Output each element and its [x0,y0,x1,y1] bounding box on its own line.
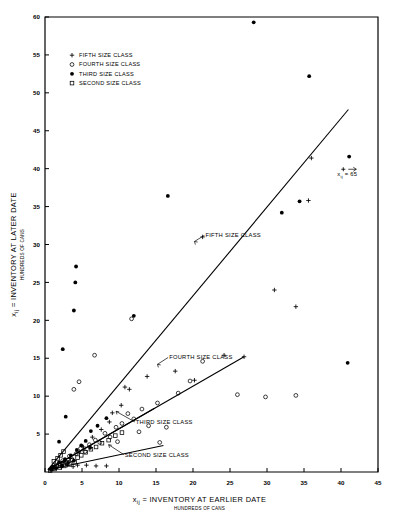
y-tick-label: 45 [33,127,40,134]
data-point [57,440,61,444]
y-tick-label: 25 [33,279,40,286]
y-tick-label: 35 [33,203,40,210]
scatter-plot-figure: 051015202530354045 510152025303540455055… [0,0,398,525]
x-axis-title: xij = INVENTORY AT EARLIER DATE [133,495,266,505]
legend-label: THIRD SIZE CLASS [79,71,134,77]
y-tick-label: 15 [33,354,40,361]
data-point [132,314,136,318]
y-axis-title: xij = INVENTORY AT LATER DATE [9,192,19,316]
legend-label: SECOND SIZE CLASS [79,80,141,86]
filled-circle-marker [70,72,74,76]
x-tick-label: 0 [43,479,47,486]
fourth-size-class-annotation: FOURTH SIZE CLASS [169,354,232,360]
chart-background [0,0,398,525]
data-point [64,415,68,419]
legend-item: FOURTH SIZE CLASS [70,61,140,67]
x-tick-label: 20 [190,479,197,486]
x-tick-label: 35 [301,479,308,486]
y-axis-subtitle: HUNDREDS OF CANS [20,229,25,280]
fifth-size-class-annotation: FIFTH SIZE CLASS [205,232,261,238]
y-tick-label: 30 [33,241,40,248]
data-point [280,211,284,215]
x-tick-label: 5 [80,479,84,486]
x-tick-label: 40 [338,479,345,486]
data-point [75,448,79,452]
y-tick-label: 55 [33,51,40,58]
x-tick-label: 10 [116,479,123,486]
legend-item: FIFTH SIZE CLASS [70,52,133,58]
x-axis-subtitle: HUNDREDS OF CANS [174,506,225,511]
data-point [252,20,256,24]
data-point [74,265,78,269]
y-tick-label: 20 [33,317,40,324]
x-tick-label: 25 [227,479,234,486]
data-point [61,347,65,351]
legend-item: SECOND SIZE CLASS [70,80,141,86]
data-point [347,155,351,159]
third-size-class-annotation: THIRD SIZE CLASS [136,419,193,425]
data-point [307,74,311,78]
data-point [298,199,302,203]
y-tick-label: 60 [33,13,40,20]
data-point [166,194,170,198]
data-point [73,281,77,285]
data-point [84,439,88,443]
legend-label: FIFTH SIZE CLASS [79,52,133,58]
chart-canvas: 051015202530354045 510152025303540455055… [0,0,398,525]
data-point [79,444,83,448]
x-tick-label: 15 [153,479,160,486]
x-tick-label: 45 [375,479,382,486]
y-tick-label: 50 [33,89,40,96]
legend-label: FOURTH SIZE CLASS [79,61,140,67]
data-point [89,429,93,433]
second-size-class-annotation: SECOND SIZE CLASS [125,452,189,458]
legend-item: THIRD SIZE CLASS [70,71,134,77]
data-point [346,361,350,365]
data-point [72,309,76,313]
y-tick-label: 5 [37,430,41,437]
x-tick-label: 30 [264,479,271,486]
y-tick-label: 40 [33,165,40,172]
data-point [96,424,100,428]
y-tick-label: 10 [33,392,40,399]
data-point [105,416,109,420]
